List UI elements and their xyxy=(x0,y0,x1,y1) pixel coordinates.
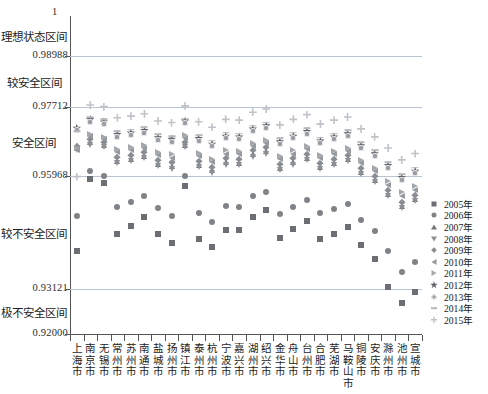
legend-marker-star-icon xyxy=(428,279,440,290)
data-point xyxy=(223,162,229,168)
data-point xyxy=(371,150,378,152)
x-tick-mark xyxy=(341,335,342,341)
data-point xyxy=(87,119,93,125)
x-axis-label: 盐城市 xyxy=(151,343,165,378)
data-point xyxy=(169,240,175,246)
x-tick-mark xyxy=(327,335,328,341)
data-point xyxy=(358,157,364,163)
data-point xyxy=(168,135,175,137)
data-point-triangle-down xyxy=(431,236,437,241)
x-tick-mark xyxy=(395,335,396,341)
data-point xyxy=(412,183,418,189)
x-tick-mark xyxy=(97,335,98,341)
legend-marker-square-icon xyxy=(428,198,440,209)
data-point xyxy=(209,156,215,162)
data-point xyxy=(263,207,269,213)
x-axis-label: 扬州市 xyxy=(165,343,179,378)
data-point xyxy=(412,170,418,176)
data-point xyxy=(223,147,229,153)
data-point xyxy=(100,103,108,111)
data-point xyxy=(222,115,230,123)
data-point xyxy=(304,143,310,149)
data-point xyxy=(358,242,364,248)
y-tick-mark xyxy=(65,56,70,57)
ecological-security-scatter-chart: 1 0.920000.931210.959680.977120.98988理想状… xyxy=(0,0,488,394)
x-axis-label: 台州市 xyxy=(300,343,314,378)
x-axis-label: 宁波市 xyxy=(219,343,233,378)
data-point xyxy=(331,136,337,142)
data-point-square xyxy=(432,201,437,206)
legend-marker-dash-icon xyxy=(428,303,440,314)
data-point xyxy=(196,210,202,216)
legend-item-2015年[interactable]: 2015年 xyxy=(428,314,488,326)
x-tick-mark xyxy=(111,335,112,341)
data-point xyxy=(223,135,229,141)
data-point xyxy=(196,236,202,242)
data-point xyxy=(289,115,297,123)
data-point xyxy=(263,122,270,124)
data-point xyxy=(128,144,134,150)
data-point-star xyxy=(430,281,438,289)
data-point xyxy=(114,160,120,166)
data-point xyxy=(128,158,134,164)
data-point xyxy=(209,143,215,149)
data-point xyxy=(249,125,256,127)
data-point-circle xyxy=(432,213,437,218)
data-point xyxy=(399,189,405,195)
data-point-plus xyxy=(431,316,438,323)
data-point-triangle-left xyxy=(432,259,437,265)
data-point xyxy=(114,231,120,237)
data-point xyxy=(304,197,310,203)
x-axis-labels-area: 上海市南京市无锡市常州市苏州市南通市盐城市扬州市镇江市泰州市杭州市宁波市嘉兴市湖… xyxy=(70,335,422,394)
data-point xyxy=(345,224,351,230)
data-point xyxy=(330,116,338,124)
data-point xyxy=(317,140,323,146)
data-point xyxy=(250,128,256,134)
data-point xyxy=(263,137,269,143)
data-point xyxy=(74,213,80,219)
data-point xyxy=(263,125,269,131)
data-point xyxy=(358,145,364,151)
data-point xyxy=(236,162,242,168)
x-axis-label: 安庆市 xyxy=(368,343,382,378)
data-point xyxy=(263,151,269,157)
data-point xyxy=(250,154,256,160)
x-tick-mark xyxy=(300,335,301,341)
x-tick-mark xyxy=(70,335,71,341)
x-tick-mark xyxy=(273,335,274,341)
x-tick-mark xyxy=(422,335,423,341)
data-point xyxy=(101,121,107,127)
data-point-dash xyxy=(431,307,437,309)
x-axis-label: 宣城市 xyxy=(408,343,422,378)
data-point xyxy=(345,158,351,164)
data-point xyxy=(331,231,337,237)
data-point xyxy=(290,162,296,168)
data-point xyxy=(196,150,202,156)
data-point xyxy=(196,138,202,144)
legend-marker-triangle-left-icon xyxy=(428,256,440,267)
data-point xyxy=(372,179,378,185)
data-point xyxy=(384,144,392,152)
x-axis-label: 上海市 xyxy=(70,343,84,378)
legend-marker-diamond-icon xyxy=(428,245,440,256)
data-point xyxy=(101,173,107,179)
data-point xyxy=(101,180,107,186)
data-point xyxy=(222,132,229,134)
data-point xyxy=(127,129,134,131)
x-axis-label: 金华市 xyxy=(273,343,287,378)
data-point xyxy=(344,130,351,132)
data-point xyxy=(277,153,283,159)
zone-label-0: 理想状态区间 xyxy=(0,28,68,44)
y-tick-label: 0.92000 xyxy=(6,327,68,338)
data-point xyxy=(411,150,419,158)
x-axis-label: 泰州市 xyxy=(192,343,206,378)
data-point xyxy=(141,155,147,161)
data-point xyxy=(250,214,256,220)
data-point xyxy=(412,259,418,265)
x-axis-label: 芜湖市 xyxy=(327,343,341,378)
data-point xyxy=(182,120,188,126)
data-point xyxy=(155,134,162,136)
data-point xyxy=(168,119,176,127)
data-point xyxy=(317,210,323,216)
x-tick-mark xyxy=(314,335,315,341)
